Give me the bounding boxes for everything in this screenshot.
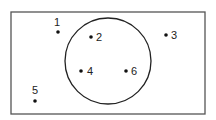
point-2: 2: [89, 31, 102, 43]
point-label: 2: [96, 31, 102, 43]
point-3: 3: [164, 29, 177, 41]
point-dot: [33, 99, 37, 103]
set-circle: [65, 18, 151, 104]
point-label: 1: [54, 16, 60, 28]
point-dot: [56, 30, 60, 34]
universe-rectangle: [11, 12, 205, 114]
point-6: 6: [124, 65, 137, 77]
point-label: 4: [87, 65, 93, 77]
point-1: 1: [54, 16, 60, 34]
point-dot: [79, 69, 83, 73]
point-4: 4: [79, 65, 93, 77]
point-label: 5: [32, 84, 38, 96]
point-label: 3: [171, 29, 177, 41]
point-dot: [89, 35, 93, 39]
point-5: 5: [32, 84, 38, 103]
venn-diagram: 123456: [0, 0, 216, 120]
points-layer: 123456: [32, 16, 177, 103]
point-dot: [124, 69, 128, 73]
point-label: 6: [131, 65, 137, 77]
point-dot: [164, 33, 168, 37]
